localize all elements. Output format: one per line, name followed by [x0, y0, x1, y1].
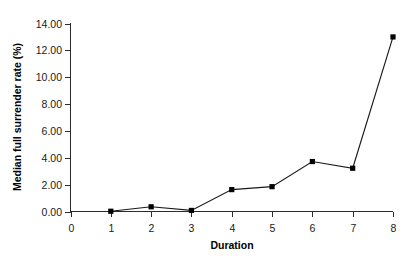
y-tick-label: 10.00: [36, 71, 62, 83]
x-tick-label: 1: [109, 222, 115, 234]
x-tick-label: 3: [189, 222, 195, 234]
y-tick-label: 0.00: [42, 206, 63, 218]
chart-container: 0.002.004.006.008.0010.0012.0014.00 0123…: [0, 0, 413, 262]
data-point-marker: [390, 34, 395, 39]
x-tick-label: 2: [149, 222, 155, 234]
y-tick-label: 6.00: [42, 125, 63, 137]
x-tick-label: 4: [230, 222, 236, 234]
x-tick-label: 7: [351, 222, 357, 234]
y-tick-label: 8.00: [42, 98, 63, 110]
x-axis-title: Duration: [210, 239, 253, 251]
x-tick-label: 0: [69, 222, 75, 234]
data-point-marker: [350, 166, 355, 171]
y-tick-label: 2.00: [42, 179, 63, 191]
x-tick-label: 8: [391, 222, 397, 234]
data-point-marker: [108, 209, 113, 214]
data-point-marker: [149, 204, 154, 209]
x-tick-label: 5: [270, 222, 276, 234]
line-chart: 0.002.004.006.008.0010.0012.0014.00 0123…: [0, 0, 413, 262]
y-tick-label: 14.00: [36, 18, 62, 30]
data-point-marker: [310, 159, 315, 164]
y-tick-label: 4.00: [42, 152, 63, 164]
data-point-marker: [189, 208, 194, 213]
data-point-marker: [229, 187, 234, 192]
x-tick-label: 6: [310, 222, 316, 234]
y-axis-title: Median full surrender rate (%): [11, 43, 23, 191]
data-point-marker: [269, 184, 274, 189]
y-tick-label: 12.00: [36, 44, 62, 56]
